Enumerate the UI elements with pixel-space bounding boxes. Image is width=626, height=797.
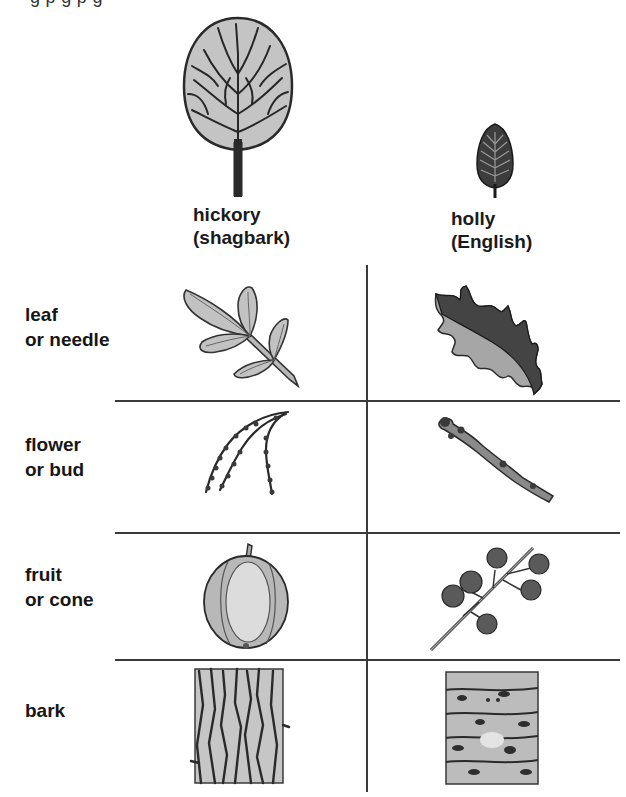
shaggy-bark-icon bbox=[185, 665, 290, 787]
compound-leaf-icon bbox=[178, 280, 308, 392]
column-header-hickory: hickory (shagbark) bbox=[193, 203, 290, 249]
row-label-leaf-line1: leaf bbox=[25, 302, 109, 327]
round-deciduous-tree-icon bbox=[178, 14, 298, 199]
column-header-hickory-name: hickory bbox=[193, 203, 290, 226]
row-label-bark: bark bbox=[25, 698, 65, 723]
row-label-fruit-line1: fruit bbox=[25, 562, 94, 587]
hickory-nut-icon bbox=[200, 540, 292, 650]
row-label-flower-line2: or bud bbox=[25, 457, 84, 482]
column-header-holly-variety: (English) bbox=[451, 230, 532, 253]
row-divider-2 bbox=[115, 532, 620, 534]
conical-evergreen-tree-icon bbox=[475, 122, 515, 200]
row-label-bark-line1: bark bbox=[25, 698, 65, 723]
row-label-fruit-line2: or cone bbox=[25, 587, 94, 612]
catkin-flower-icon bbox=[180, 408, 295, 498]
spiny-holly-leaf-icon bbox=[432, 284, 562, 396]
row-divider-1 bbox=[115, 400, 620, 402]
row-label-flower: flower or bud bbox=[25, 432, 84, 482]
row-label-leaf-line2: or needle bbox=[25, 327, 109, 352]
twig-bud-icon bbox=[433, 414, 563, 504]
row-label-flower-line1: flower bbox=[25, 432, 84, 457]
clipped-caption-text: g p g p g bbox=[30, 0, 103, 8]
row-label-leaf: leaf or needle bbox=[25, 302, 109, 352]
column-divider bbox=[366, 265, 368, 792]
row-divider-3 bbox=[115, 659, 620, 661]
column-header-hickory-variety: (shagbark) bbox=[193, 226, 290, 249]
holly-berries-icon bbox=[423, 540, 563, 655]
column-header-holly-name: holly bbox=[451, 207, 532, 230]
smooth-warty-bark-icon bbox=[440, 668, 545, 790]
column-header-holly: holly (English) bbox=[451, 207, 532, 253]
row-label-fruit: fruit or cone bbox=[25, 562, 94, 612]
